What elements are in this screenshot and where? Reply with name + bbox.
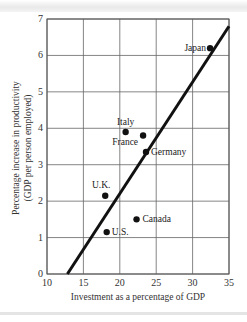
y-tick-label: 1	[38, 232, 43, 243]
y-tick-label: 6	[38, 49, 43, 60]
bottom-shadow-bar	[0, 312, 247, 315]
y-axis-title-line2: (GDP per person employed)	[23, 94, 34, 201]
y-tick-labels: 01234567	[38, 13, 43, 279]
data-point-france: France	[112, 132, 146, 146]
point-marker	[143, 149, 149, 155]
data-point-us: U.S.	[103, 227, 128, 237]
x-tick-label: 35	[224, 277, 234, 288]
point-label: Japan	[184, 43, 206, 53]
y-tick-label: 2	[38, 195, 43, 206]
x-tick-labels: 101520253035	[42, 277, 234, 288]
point-label: Italy	[117, 117, 135, 127]
point-marker	[102, 192, 108, 198]
point-label: Germany	[151, 147, 187, 157]
point-label: France	[112, 137, 138, 147]
point-marker	[133, 216, 139, 222]
point-label: Canada	[143, 214, 172, 224]
point-label: U.S.	[112, 227, 129, 237]
scatter-chart: 101520253035 01234567 JapanItalyFranceGe…	[0, 0, 247, 322]
point-marker	[207, 45, 213, 51]
y-tick-label: 0	[38, 268, 43, 279]
y-tick-label: 5	[38, 86, 43, 97]
x-axis-title: Investment as a percentage of GDP	[71, 292, 205, 302]
data-point-uk: U.K.	[92, 180, 110, 199]
point-label: U.K.	[92, 180, 110, 190]
x-tick-label: 30	[188, 277, 198, 288]
x-tick-label: 10	[42, 277, 52, 288]
data-point-canada: Canada	[133, 214, 171, 224]
x-tick-label: 25	[151, 277, 161, 288]
y-tick-label: 3	[38, 159, 43, 170]
point-marker	[122, 129, 128, 135]
data-point-japan: Japan	[184, 43, 213, 53]
point-marker	[103, 229, 109, 235]
x-tick-label: 15	[78, 277, 88, 288]
y-axis-title-line1: Percentage increase in productivity	[11, 81, 21, 215]
point-marker	[140, 132, 146, 138]
x-tick-label: 20	[115, 277, 125, 288]
y-tick-label: 4	[38, 122, 43, 133]
y-tick-label: 7	[38, 13, 43, 24]
